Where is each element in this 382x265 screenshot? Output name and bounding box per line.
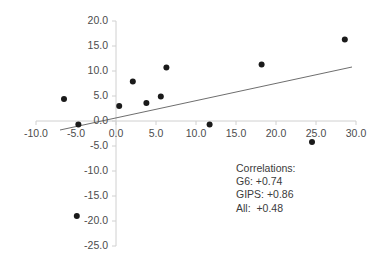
y-tick-label: 20.0 xyxy=(60,14,108,26)
data-point xyxy=(342,37,348,43)
y-tick-label: 0.0 xyxy=(60,114,108,126)
y-tick-label: 10.0 xyxy=(60,64,108,76)
data-point xyxy=(130,79,136,85)
correlations-annotation: Correlations: G6: +0.74 GIPS: +0.86 All:… xyxy=(236,162,296,215)
annotation-line-all: All: +0.48 xyxy=(236,202,296,215)
data-point xyxy=(163,65,169,71)
data-point xyxy=(143,100,149,106)
scatter-plot-figure: 20.015.010.05.00.0-5.0-10.0-15.0-20.0-25… xyxy=(0,0,382,265)
data-point xyxy=(309,139,315,145)
y-tick-label: -10.0 xyxy=(60,164,108,176)
annotation-heading: Correlations: xyxy=(236,162,296,175)
y-tick-label: -25.0 xyxy=(60,239,108,251)
data-point xyxy=(116,103,122,109)
y-tick-label: -5.0 xyxy=(60,139,108,151)
annotation-line-g6: G6: +0.74 xyxy=(236,175,296,188)
y-tick-label: 5.0 xyxy=(60,89,108,101)
x-tick-label: 30.0 xyxy=(332,127,380,139)
annotation-line-gips: GIPS: +0.86 xyxy=(236,188,296,201)
y-tick-label: -15.0 xyxy=(60,189,108,201)
data-point xyxy=(259,62,265,68)
y-tick-label: -20.0 xyxy=(60,214,108,226)
y-tick-label: 15.0 xyxy=(60,39,108,51)
data-point xyxy=(158,94,164,100)
